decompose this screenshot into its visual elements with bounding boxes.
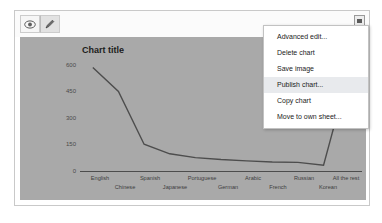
x-tick-label: French	[269, 184, 286, 190]
pencil-icon	[44, 18, 56, 30]
menu-item-save-image[interactable]: Save image	[264, 61, 368, 77]
x-tick-label: English	[91, 175, 109, 181]
chart-context-menu: Advanced edit... Delete chart Save image…	[263, 25, 369, 129]
y-axis: 600 450 300 150 0	[50, 65, 76, 171]
eye-icon	[24, 20, 36, 29]
x-tick-label: Korean	[319, 184, 337, 190]
menu-item-copy-chart[interactable]: Copy chart	[264, 93, 368, 109]
y-tick-label: 150	[66, 141, 76, 147]
x-tick-label: Russian	[294, 175, 314, 181]
menu-item-advanced-edit[interactable]: Advanced edit...	[264, 29, 368, 45]
menu-item-publish-chart[interactable]: Publish chart...	[264, 77, 368, 93]
dropdown-icon	[357, 19, 362, 23]
x-tick-label: Portuguese	[188, 175, 217, 181]
edit-chart-button[interactable]	[40, 15, 60, 33]
x-tick-label: All the rest	[333, 175, 359, 181]
chart-widget: Chart title 600 450 300 150 0	[14, 10, 370, 206]
y-tick-label: 0	[73, 168, 76, 174]
chart-title: Chart title	[82, 45, 124, 55]
x-tick-label: Chinese	[115, 184, 136, 190]
x-tick-label: Arabic	[245, 175, 261, 181]
view-chart-button[interactable]	[20, 15, 40, 33]
y-tick-label: 300	[66, 115, 76, 121]
menu-item-delete-chart[interactable]: Delete chart	[264, 45, 368, 61]
y-tick-label: 450	[66, 88, 76, 94]
x-tick-label: German	[218, 184, 238, 190]
x-tick-label: Spanish	[140, 175, 160, 181]
y-tick-label: 600	[66, 62, 76, 68]
menu-item-move-to-own-sheet[interactable]: Move to own sheet...	[264, 109, 368, 125]
x-tick-label: Japanese	[163, 184, 187, 190]
